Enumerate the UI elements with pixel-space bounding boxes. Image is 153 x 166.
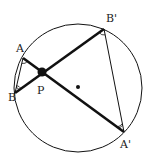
intersecting-chords-diagram: A B P B' A' (0, 0, 153, 166)
label-A: A (15, 42, 25, 55)
segment-A'B' (104, 29, 124, 132)
center-point (76, 85, 80, 89)
label-P: P (37, 84, 45, 97)
label-A-prime: A' (119, 138, 131, 151)
label-B-prime: B' (106, 12, 117, 25)
intersection-point-P (38, 68, 47, 77)
label-B: B (8, 91, 16, 104)
